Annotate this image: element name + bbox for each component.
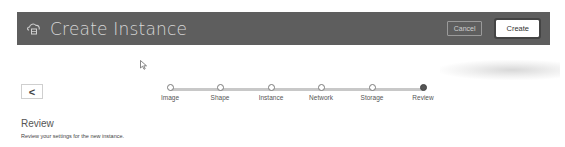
header-actions: Cancel Create (447, 20, 539, 37)
blurred-region (440, 60, 560, 80)
create-button[interactable]: Create (496, 20, 539, 37)
step-label: Review (412, 94, 433, 101)
step-dot (268, 84, 275, 91)
mouse-cursor-icon (140, 60, 148, 70)
section-description: Review your settings for the new instanc… (21, 133, 124, 139)
back-button[interactable]: < (21, 84, 43, 99)
step-label: Image (161, 94, 179, 101)
step-storage[interactable]: Storage (352, 84, 392, 101)
chevron-left-icon: < (29, 86, 35, 98)
wizard-stepper: Image Shape Instance Network Storage Rev… (162, 84, 462, 109)
step-image[interactable]: Image (150, 84, 190, 101)
step-label: Storage (361, 94, 384, 101)
step-label: Instance (259, 94, 284, 101)
cancel-button[interactable]: Cancel (447, 21, 483, 36)
step-label: Network (309, 94, 333, 101)
step-dot (217, 84, 224, 91)
step-dot (369, 84, 376, 91)
page-title: Create Instance (50, 19, 187, 39)
step-review[interactable]: Review (403, 84, 443, 101)
step-instance[interactable]: Instance (251, 84, 291, 101)
section-title: Review (21, 118, 54, 129)
page-header: Create Instance Cancel Create (17, 12, 550, 45)
cloud-instance-icon (26, 21, 42, 37)
step-shape[interactable]: Shape (200, 84, 240, 101)
step-dot-active (420, 84, 427, 91)
step-label: Shape (211, 94, 230, 101)
step-dot (167, 84, 174, 91)
step-network[interactable]: Network (301, 84, 341, 101)
step-dot (318, 84, 325, 91)
